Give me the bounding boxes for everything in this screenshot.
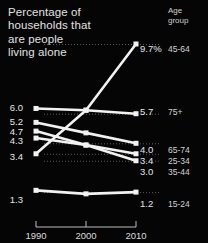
marker-75+-2000 xyxy=(84,108,89,113)
end-value-label-4: 3.0 xyxy=(140,167,153,177)
marker-15-24-1990 xyxy=(34,188,39,193)
marker-35-44-1990 xyxy=(34,136,39,141)
chart-root: Percentage of households that are people… xyxy=(0,0,208,243)
start-value-label-3: 4.3 xyxy=(1,136,23,146)
end-value-label-2: 4.0 xyxy=(140,145,153,155)
x-tick-label-1990: 1990 xyxy=(25,230,46,241)
legend-group-label-15-24: 15-24 xyxy=(168,199,190,209)
x-tick-label-2000: 2000 xyxy=(75,230,96,241)
marker-65-74-2010 xyxy=(134,141,139,146)
marker-35-44-2000 xyxy=(84,143,89,148)
start-value-label-0: 6.0 xyxy=(1,103,23,113)
legend-group-label-25-34: 25-34 xyxy=(168,156,190,166)
marker-75+-1990 xyxy=(34,106,39,111)
marker-45-64-1990 xyxy=(34,151,39,156)
start-value-label-4: 3.4 xyxy=(1,152,23,162)
marker-45-64-2010 xyxy=(134,42,139,47)
end-value-label-1: 5.7 xyxy=(140,107,153,117)
end-value-label-5: 1.2 xyxy=(140,199,153,209)
marker-65-74-2000 xyxy=(84,130,89,135)
x-tick-label-2010: 2010 xyxy=(125,230,146,241)
marker-15-24-2000 xyxy=(84,191,89,196)
series-line-45-64 xyxy=(36,44,136,154)
marker-25-34-2010 xyxy=(134,151,139,156)
legend-group-label-45-64: 45-64 xyxy=(168,44,190,54)
legend-group-label-65-74: 65-74 xyxy=(168,145,190,155)
start-value-label-5: 1.3 xyxy=(1,195,23,205)
x-axis-bracket xyxy=(36,221,136,227)
legend-group-label-75+: 75+ xyxy=(168,107,182,117)
end-value-label-0: 9.7% xyxy=(140,44,162,54)
marker-75+-2010 xyxy=(134,111,139,116)
marker-15-24-2010 xyxy=(134,190,139,195)
marker-25-34-1990 xyxy=(34,129,39,134)
legend-group-label-35-44: 35-44 xyxy=(168,167,190,177)
marker-65-74-1990 xyxy=(34,120,39,125)
end-value-label-3: 3.4 xyxy=(140,156,153,166)
marker-35-44-2010 xyxy=(134,158,139,163)
